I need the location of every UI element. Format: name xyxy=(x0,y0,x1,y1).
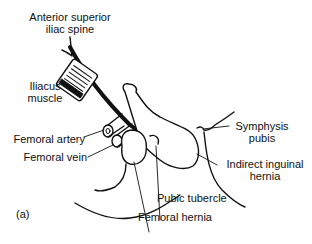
leader-symphysis xyxy=(203,126,229,129)
label-symphysis-pubis: Symphysis pubis xyxy=(232,120,292,144)
panel-label: (a) xyxy=(16,208,29,220)
leader-femoral-vein xyxy=(88,145,113,157)
label-indirect-line2: hernia xyxy=(218,170,312,182)
label-asis-line2: iliac spine xyxy=(20,23,120,35)
label-asis-line1: Anterior superior xyxy=(20,11,120,23)
label-pubic-tubercle: Pubic tubercle xyxy=(157,192,227,204)
label-indirect-inguinal-hernia: Indirect inguinal hernia xyxy=(218,158,312,182)
label-anterior-superior-iliac-spine: Anterior superior iliac spine xyxy=(20,11,120,35)
femoral-hernia-sac xyxy=(122,130,147,164)
thigh-contour-upper xyxy=(95,164,126,191)
label-symphysis-line2: pubis xyxy=(232,132,292,144)
label-indirect-line1: Indirect inguinal xyxy=(218,158,312,170)
label-iliacus-line1: Iliacus xyxy=(22,80,68,92)
anatomy-diagram: Anterior superior iliac spine Iliacus mu… xyxy=(0,0,312,244)
label-iliacus-muscle: Iliacus muscle xyxy=(22,80,68,104)
label-iliacus-line2: muscle xyxy=(22,92,68,104)
label-femoral-hernia: Femoral hernia xyxy=(138,211,212,223)
label-femoral-artery: Femoral artery xyxy=(0,133,85,145)
asis-tip xyxy=(62,37,72,56)
label-symphysis-line1: Symphysis xyxy=(232,120,292,132)
label-femoral-vein: Femoral vein xyxy=(0,151,87,163)
leader-femoral-artery xyxy=(84,130,104,137)
